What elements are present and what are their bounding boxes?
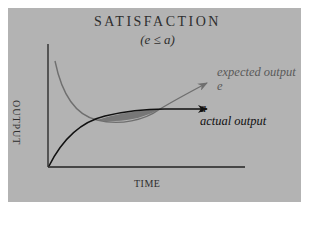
x-axis-label: TIME: [134, 178, 160, 189]
expected-symbol: e: [217, 79, 223, 94]
expected-output-label: expected output: [217, 65, 296, 80]
actual-output-label: actual output: [200, 114, 266, 129]
y-axis-label: OUTPUT: [11, 100, 22, 145]
